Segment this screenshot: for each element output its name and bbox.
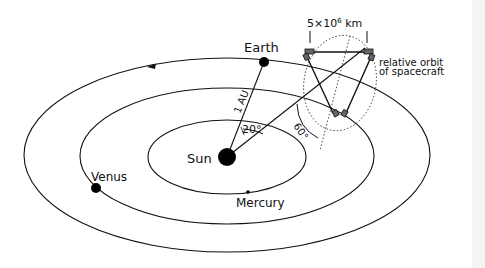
constellation-normal-line <box>320 36 350 150</box>
sun-label: Sun <box>187 151 212 166</box>
sun-icon <box>218 148 236 166</box>
earth-label: Earth <box>244 40 279 55</box>
relative-orbit-label-line2: of spacecraft <box>379 66 444 77</box>
mercury-label: Mercury <box>236 196 285 210</box>
spacecraft-2-icon <box>364 49 373 54</box>
mercury-icon <box>246 190 250 194</box>
orbit-direction-arrow-icon <box>147 64 156 70</box>
spacecraft-3-icon <box>332 109 339 117</box>
earth-icon <box>259 57 269 67</box>
angle-20-label: 20° <box>242 123 262 136</box>
solar-system-diagram: Earth Sun Venus Mercury 1 AU 20° 60° 5×1… <box>0 0 485 268</box>
arm-length-label: 5×106 km <box>307 17 362 30</box>
distance-label: 1 AU <box>232 89 251 115</box>
relative-orbit-ellipse <box>296 29 384 136</box>
angle-60-label: 60° <box>291 121 310 142</box>
venus-label: Venus <box>91 170 127 184</box>
venus-icon <box>91 183 101 193</box>
